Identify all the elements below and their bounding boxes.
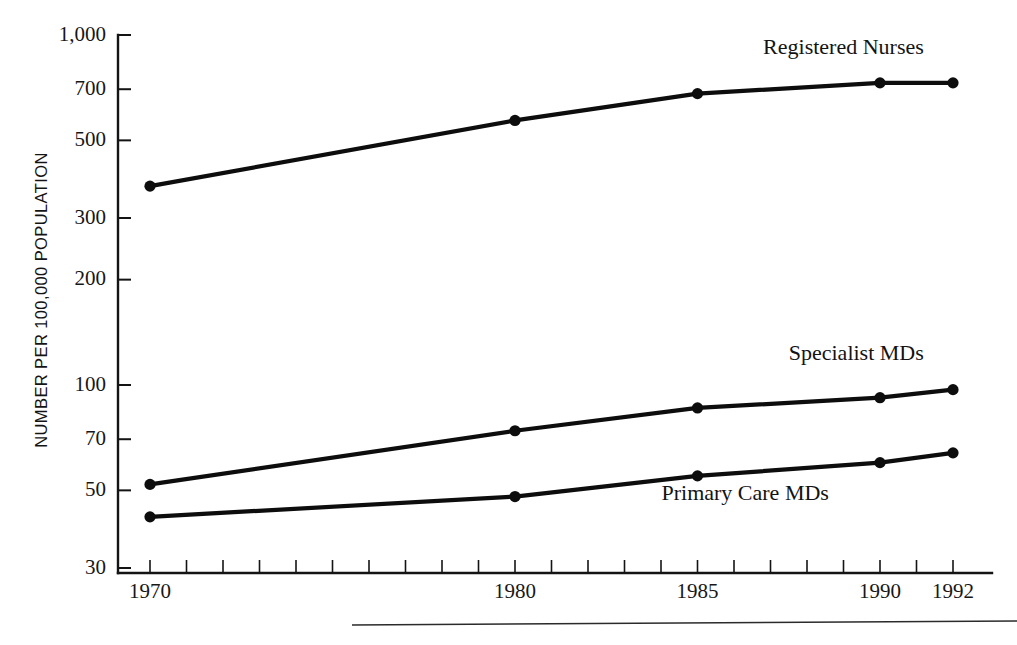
series-primary-care-mds — [144, 447, 958, 522]
x-tick-label-1980: 1980 — [494, 579, 536, 603]
y-tick-label-500: 500 — [75, 127, 107, 151]
data-point-registered-nurses-1990 — [874, 77, 885, 88]
series-label-specialist-mds: Specialist MDs — [789, 340, 924, 365]
data-point-specialist-mds-1970 — [144, 479, 155, 490]
y-axis-title: NUMBER PER 100,000 POPULATION — [32, 152, 50, 448]
data-point-registered-nurses-1980 — [509, 115, 520, 126]
y-tick-label-1000: 1,000 — [59, 22, 106, 46]
series-label-registered-nurses: Registered Nurses — [763, 34, 924, 59]
series-specialist-mds — [144, 384, 958, 490]
data-point-registered-nurses-1992 — [947, 77, 958, 88]
data-point-primary-care-mds-1992 — [947, 447, 958, 458]
series-line-specialist-mds — [150, 390, 953, 485]
line-chart: 1,000700500300200100705030 1970198019851… — [0, 0, 1017, 645]
series-label-primary-care-mds: Primary Care MDs — [661, 480, 828, 505]
series-label-group: Registered NursesSpecialist MDsPrimary C… — [661, 34, 923, 504]
y-tick-group: 1,000700500300200100705030 — [59, 22, 131, 579]
data-point-primary-care-mds-1970 — [144, 511, 155, 522]
y-tick-label-50: 50 — [85, 477, 106, 501]
y-tick-label-300: 300 — [75, 205, 107, 229]
chart-figure: 1,000700500300200100705030 1970198019851… — [0, 0, 1017, 645]
y-tick-label-100: 100 — [75, 372, 107, 396]
data-point-specialist-mds-1992 — [947, 384, 958, 395]
data-point-specialist-mds-1980 — [509, 425, 520, 436]
x-tick-label-1985: 1985 — [677, 579, 719, 603]
series-line-registered-nurses — [150, 83, 953, 186]
y-tick-label-70: 70 — [85, 426, 106, 450]
series-registered-nurses — [144, 77, 958, 191]
y-tick-label-700: 700 — [75, 76, 107, 100]
data-point-registered-nurses-1985 — [692, 88, 703, 99]
x-tick-label-1970: 1970 — [129, 579, 171, 603]
y-tick-label-30: 30 — [85, 555, 106, 579]
data-point-specialist-mds-1985 — [692, 402, 703, 413]
data-point-primary-care-mds-1980 — [509, 491, 520, 502]
data-point-specialist-mds-1990 — [874, 392, 885, 403]
series-group — [144, 77, 958, 522]
data-point-primary-care-mds-1990 — [874, 457, 885, 468]
series-line-primary-care-mds — [150, 453, 953, 517]
page-footer-rule — [352, 621, 1017, 625]
y-tick-label-200: 200 — [75, 266, 107, 290]
x-tick-label-1990: 1990 — [859, 579, 901, 603]
x-tick-label-1992: 1992 — [932, 579, 974, 603]
x-tick-group: 19701980198519901992 — [129, 560, 974, 603]
data-point-registered-nurses-1970 — [144, 181, 155, 192]
